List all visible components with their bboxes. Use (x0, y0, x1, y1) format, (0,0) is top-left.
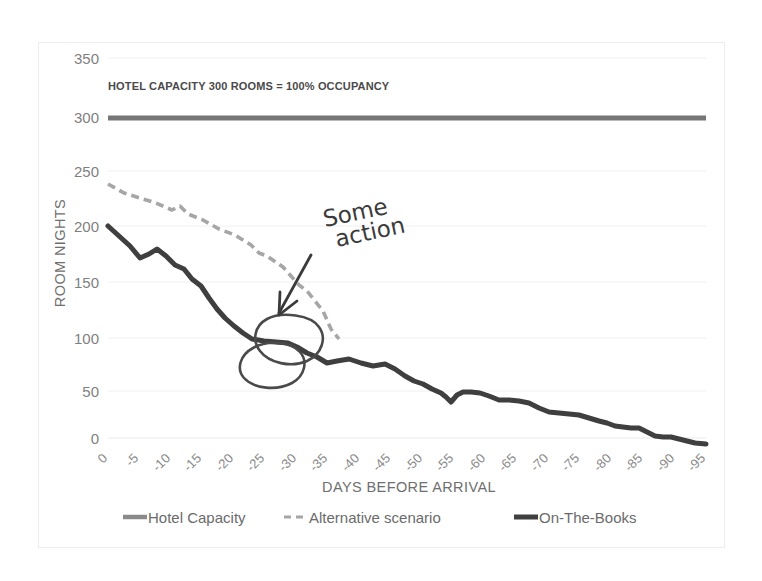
x-tick-75: -75 (558, 451, 582, 475)
x-tick-15: -15 (180, 451, 204, 475)
x-axis-title: DAYS BEFORE ARRIVAL (322, 479, 496, 495)
y-axis-title: ROOM NIGHTS (52, 199, 68, 307)
x-tick-65: -65 (495, 451, 519, 475)
x-tick-70: -70 (527, 451, 551, 475)
legend-item-alternative-scenario[interactable]: Alternative scenario (284, 509, 441, 526)
y-tick-0: 0 (91, 430, 99, 447)
legend-label-alternative-scenario: Alternative scenario (309, 509, 441, 526)
x-tick-0: 0 (94, 451, 110, 467)
capacity-note-text: HOTEL CAPACITY 300 ROOMS = 100% OCCUPANC… (108, 80, 390, 92)
y-tick-200: 200 (74, 218, 99, 235)
y-tick-250: 250 (74, 163, 99, 180)
legend-label-on-the-books: On-The-Books (539, 509, 637, 526)
x-tick-55: -55 (432, 451, 456, 475)
x-tick-60: -60 (464, 451, 488, 475)
x-tick-20: -20 (212, 451, 236, 475)
x-tick-50: -50 (401, 451, 425, 475)
y-tick-100: 100 (74, 330, 99, 347)
y-tick-350: 350 (74, 50, 99, 67)
y-tick-50: 50 (82, 383, 99, 400)
x-tick-80: -80 (590, 451, 614, 475)
x-tick-35: -35 (306, 451, 330, 475)
series-on-the-books (108, 226, 706, 444)
chart-canvas: 350 300 250 200 150 100 50 0 ROOM NIGHTS… (39, 43, 726, 549)
x-tick-90: -90 (653, 451, 677, 475)
x-tick-45: -45 (369, 451, 393, 475)
gridlines (108, 58, 706, 438)
x-tick-40: -40 (338, 451, 362, 475)
y-axis-ticks: 350 300 250 200 150 100 50 0 (74, 50, 99, 447)
legend-item-on-the-books[interactable]: On-The-Books (514, 509, 637, 526)
chart-card: 350 300 250 200 150 100 50 0 ROOM NIGHTS… (38, 42, 725, 548)
legend-item-hotel-capacity[interactable]: Hotel Capacity (123, 509, 246, 526)
y-tick-150: 150 (74, 274, 99, 291)
x-tick-10: -10 (149, 451, 173, 475)
x-tick-5: -5 (122, 451, 141, 470)
legend-label-hotel-capacity: Hotel Capacity (148, 509, 246, 526)
chart-legend: Hotel Capacity Alternative scenario On-T… (123, 509, 637, 526)
x-tick-30: -30 (275, 451, 299, 475)
x-tick-95: -95 (684, 451, 708, 475)
y-tick-300: 300 (74, 109, 99, 126)
x-tick-85: -85 (621, 451, 645, 475)
x-tick-25: -25 (243, 451, 267, 475)
x-axis-ticks: 0 -5 -10 -15 -20 -25 -30 -35 -40 -45 -50… (94, 451, 708, 475)
